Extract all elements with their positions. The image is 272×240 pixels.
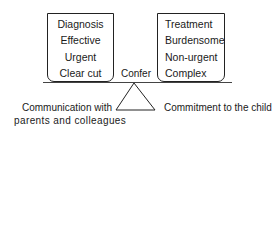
fulcrum-left-label-line1: Communication with <box>22 102 112 114</box>
fulcrum-right-label: Commitment to the child <box>164 102 272 114</box>
fulcrum-left-label-line2: parents and colleagues <box>14 115 126 127</box>
